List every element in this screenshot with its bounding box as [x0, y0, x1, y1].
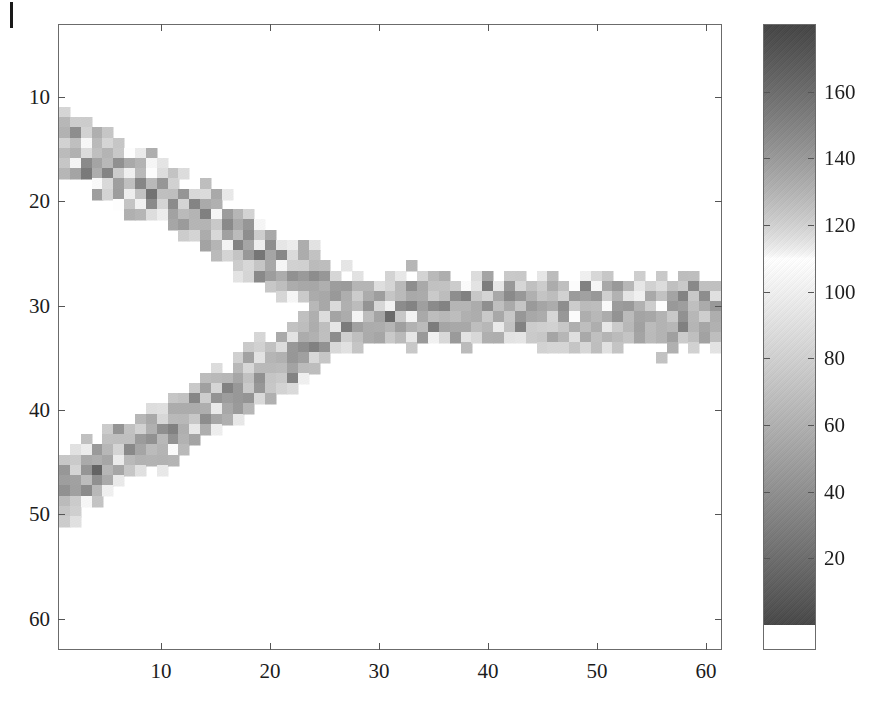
- colorbar-tick-right-20: [808, 558, 814, 559]
- x-tick-label-30: 30: [369, 661, 390, 682]
- x-tick-40: [488, 643, 489, 650]
- y-tick-label-10: 10: [10, 87, 50, 108]
- heatmap-image: [59, 25, 721, 649]
- heatmap-axes: [58, 24, 722, 650]
- x-tick-top-40: [488, 24, 489, 31]
- colorbar-tick-label-40: 40: [824, 482, 845, 503]
- colorbar-tick-right-140: [808, 158, 814, 159]
- colorbar-tick-label-160: 160: [824, 82, 856, 103]
- colorbar-tick-right-40: [808, 492, 814, 493]
- y-tick-right-50: [715, 514, 722, 515]
- y-tick-right-10: [715, 97, 722, 98]
- y-tick-20: [58, 201, 65, 202]
- colorbar-tick-label-140: 140: [824, 148, 856, 169]
- y-tick-right-30: [715, 306, 722, 307]
- scan-artifact-mark: [10, 2, 13, 28]
- x-tick-top-10: [161, 24, 162, 31]
- colorbar-tick-left-60: [764, 425, 770, 426]
- x-tick-20: [270, 643, 271, 650]
- x-tick-60: [706, 643, 707, 650]
- figure-root: 102030405060102030405060 204060801001201…: [0, 0, 883, 703]
- colorbar-gradient: [764, 25, 815, 625]
- colorbar-tick-right-100: [808, 292, 814, 293]
- x-tick-50: [597, 643, 598, 650]
- colorbar: [763, 24, 816, 650]
- colorbar-tick-right-160: [808, 92, 814, 93]
- y-tick-label-60: 60: [10, 609, 50, 630]
- x-tick-label-60: 60: [696, 661, 717, 682]
- colorbar-tick-label-80: 80: [824, 348, 845, 369]
- y-tick-10: [58, 97, 65, 98]
- colorbar-blank-strip: [764, 625, 815, 649]
- colorbar-tick-left-100: [764, 292, 770, 293]
- x-tick-30: [379, 643, 380, 650]
- colorbar-tick-left-160: [764, 92, 770, 93]
- colorbar-tick-right-120: [808, 225, 814, 226]
- y-tick-label-20: 20: [10, 191, 50, 212]
- colorbar-tick-left-140: [764, 158, 770, 159]
- colorbar-tick-right-80: [808, 358, 814, 359]
- y-tick-right-40: [715, 410, 722, 411]
- y-tick-label-40: 40: [10, 400, 50, 421]
- colorbar-tick-left-120: [764, 225, 770, 226]
- colorbar-tick-right-60: [808, 425, 814, 426]
- x-tick-label-40: 40: [478, 661, 499, 682]
- y-tick-40: [58, 410, 65, 411]
- y-tick-label-50: 50: [10, 504, 50, 525]
- y-tick-60: [58, 619, 65, 620]
- colorbar-tick-label-100: 100: [824, 282, 856, 303]
- y-tick-50: [58, 514, 65, 515]
- colorbar-tick-left-40: [764, 492, 770, 493]
- y-tick-30: [58, 306, 65, 307]
- x-tick-10: [161, 643, 162, 650]
- x-tick-top-30: [379, 24, 380, 31]
- colorbar-tick-label-20: 20: [824, 548, 845, 569]
- colorbar-tick-label-60: 60: [824, 415, 845, 436]
- colorbar-tick-left-20: [764, 558, 770, 559]
- x-tick-top-50: [597, 24, 598, 31]
- x-tick-label-50: 50: [587, 661, 608, 682]
- colorbar-tick-left-80: [764, 358, 770, 359]
- x-tick-label-10: 10: [151, 661, 172, 682]
- x-tick-label-20: 20: [260, 661, 281, 682]
- y-tick-label-30: 30: [10, 296, 50, 317]
- x-tick-top-60: [706, 24, 707, 31]
- y-tick-right-20: [715, 201, 722, 202]
- colorbar-tick-label-120: 120: [824, 215, 856, 236]
- y-tick-right-60: [715, 619, 722, 620]
- x-tick-top-20: [270, 24, 271, 31]
